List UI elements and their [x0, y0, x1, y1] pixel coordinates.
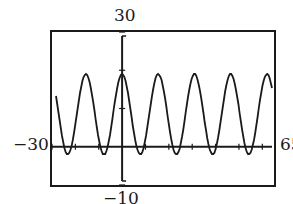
ymin-label: −10 — [103, 190, 139, 204]
xmin-label: −30 — [13, 136, 49, 153]
ymax-label: 30 — [114, 7, 136, 24]
xmax-label: 65 — [280, 136, 293, 153]
function-curve — [56, 74, 272, 154]
viewing-window-frame — [51, 31, 275, 186]
graph-window — [0, 0, 293, 204]
